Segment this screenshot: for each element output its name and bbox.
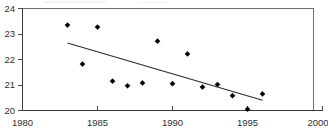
- data-point: [125, 83, 130, 88]
- data-point-series: [65, 22, 265, 111]
- y-axis-ticks: [18, 9, 23, 111]
- data-point: [230, 93, 235, 98]
- data-point: [65, 22, 70, 27]
- regression-trend-line: [68, 43, 263, 100]
- y-tick-label-23: 23: [4, 28, 15, 39]
- y-tick-label-20: 20: [4, 105, 15, 116]
- data-point: [200, 84, 205, 89]
- x-tick-label-1990: 1990: [162, 117, 183, 128]
- data-point: [95, 25, 100, 30]
- trend-line-series: [68, 43, 263, 100]
- x-axis-tick-labels: 1980 1985 1990 1995 2000: [12, 117, 328, 128]
- data-point: [170, 81, 175, 86]
- y-tick-label-21: 21: [4, 79, 15, 90]
- data-point: [110, 79, 115, 84]
- x-tick-label-2000: 2000: [307, 117, 328, 128]
- x-tick-label-1995: 1995: [237, 117, 258, 128]
- y-axis-tick-labels: 20 21 22 23 24: [4, 3, 15, 116]
- x-tick-label-1980: 1980: [12, 117, 33, 128]
- data-point: [185, 51, 190, 56]
- y-tick-label-22: 22: [4, 54, 15, 65]
- y-tick-label-24: 24: [4, 3, 15, 14]
- data-point: [140, 80, 145, 85]
- x-tick-label-1985: 1985: [87, 117, 108, 128]
- data-point: [80, 61, 85, 66]
- data-point: [260, 91, 265, 96]
- data-point: [155, 39, 160, 44]
- x-axis-ticks: [23, 106, 323, 111]
- scatter-chart: 20 21 22 23 24 1980 1985 1990 1995 2000: [0, 0, 328, 133]
- chart-canvas: 20 21 22 23 24 1980 1985 1990 1995 2000: [0, 0, 328, 133]
